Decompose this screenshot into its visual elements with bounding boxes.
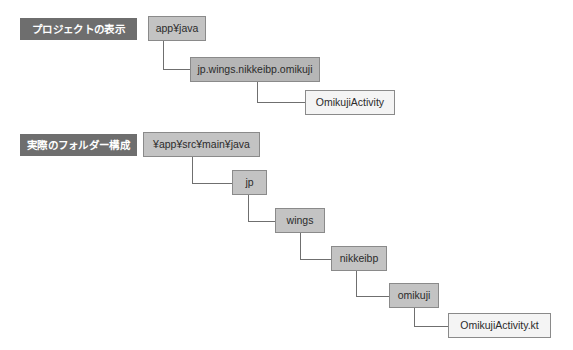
connector-horizontal-segment	[356, 296, 389, 297]
connector-vertical-segment	[356, 271, 357, 296]
connector-horizontal-segment	[414, 326, 448, 327]
node-omikuji: omikuji	[389, 283, 439, 308]
connector-vertical-segment	[192, 157, 193, 183]
connector-vertical-segment	[257, 82, 258, 102]
node-app-java: app¥java	[148, 16, 206, 41]
folder-structure-diagram: プロジェクトの表示app¥javajp.wings.nikkeibp.omiku…	[0, 0, 573, 350]
connector-vertical-segment	[248, 195, 249, 221]
connector-horizontal-segment	[163, 69, 190, 70]
node-nikkeibp: nikkeibp	[331, 246, 387, 271]
connector-vertical-segment	[414, 308, 415, 326]
connector-horizontal-segment	[257, 102, 305, 103]
connector-horizontal-segment	[300, 259, 331, 260]
connector-horizontal-segment	[248, 221, 275, 222]
section-label-folder-structure: 実際のフォルダー構成	[20, 134, 137, 156]
node-wings: wings	[275, 208, 325, 233]
connector-horizontal-segment	[192, 183, 232, 184]
node-root-java: ¥app¥src¥main¥java	[143, 132, 260, 157]
node-jp: jp	[232, 170, 267, 195]
connector-vertical-segment	[300, 233, 301, 259]
node-package-omikuji: jp.wings.nikkeibp.omikuji	[190, 57, 320, 82]
section-label-project-view: プロジェクトの表示	[20, 18, 137, 40]
connector-vertical-segment	[163, 41, 164, 69]
node-omikuji-activity-kt: OmikujiActivity.kt	[448, 313, 551, 338]
node-omikuji-activity: OmikujiActivity	[305, 90, 395, 115]
